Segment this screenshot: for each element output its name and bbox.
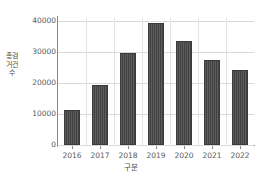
x-tick-mark [184,146,185,149]
x-tick-mark [212,146,213,149]
y-tick-label: 10000 [22,110,56,118]
gridline-vertical [142,18,143,145]
y-tick-label: 0 [22,141,56,149]
y-tick-label: 20000 [22,79,56,87]
x-tick-mark [72,146,73,149]
bar [92,85,108,145]
bar [176,41,192,145]
bar [64,110,80,145]
gridline-vertical [86,18,87,145]
bar [232,70,248,145]
y-axis-ticks: 0 10000 20000 30000 40000 [18,0,56,187]
bar [204,60,220,145]
y-tick-label: 30000 [22,48,56,56]
x-tick-label: 2017 [85,151,115,160]
x-tick-mark [100,146,101,149]
x-tick-label: 2022 [225,151,255,160]
gridline-vertical [226,18,227,145]
x-axis-title: 구분 [0,163,262,173]
x-tick-label: 2018 [113,151,143,160]
x-tick-mark [128,146,129,149]
x-tick-mark [240,146,241,149]
gridline-vertical [170,18,171,145]
plot-area [58,18,254,145]
x-tick-label: 2021 [197,151,227,160]
x-tick-mark [156,146,157,149]
bar-chart: 총검거건수 0 10000 20000 30000 40000 20162017… [0,0,262,187]
x-tick-label: 2016 [57,151,87,160]
gridline-horizontal [58,21,254,22]
gridline-vertical [198,18,199,145]
bar [120,53,136,145]
bar [148,23,164,145]
y-tick-label: 40000 [22,17,56,25]
x-tick-label: 2020 [169,151,199,160]
x-tick-label: 2019 [141,151,171,160]
gridline-vertical [114,18,115,145]
